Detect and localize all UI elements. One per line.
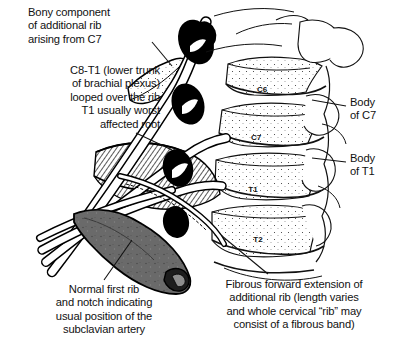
vertebra-label-t1: T1 [248,185,258,194]
annotation-lower-trunk: C8-T1 (lower trunk of brachial plexus) l… [4,64,160,131]
annotation-bony-component: Bony component of additional rib arising… [28,6,160,46]
annotation-body-of-c7: Body of C7 [350,96,392,123]
annotation-body-of-t1: Body of T1 [350,152,392,179]
annotation-fibrous-extension: Fibrous forward extension of additional … [198,278,390,332]
vertebra-label-c6: C6 [257,85,268,94]
vertebra-label-c7: C7 [251,133,262,142]
vertebra-label-t2: T2 [253,235,263,244]
annotation-normal-first-rib: Normal first rib and notch indicating us… [12,283,196,337]
